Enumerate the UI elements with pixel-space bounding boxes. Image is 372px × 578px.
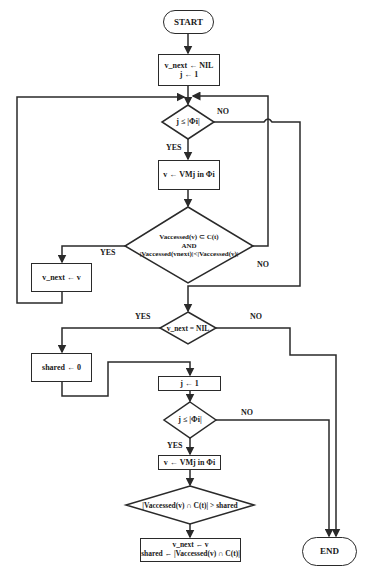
condition-4-text: |Vaccessed(v) ∩ C(t)| > shared [136, 496, 244, 514]
yes-label-cond1: YES [166, 143, 182, 152]
end-label: END [320, 546, 339, 556]
condition-3-label: j ≤ |Φi| [178, 415, 201, 425]
shared-init-box: shared ← 0 [31, 353, 92, 382]
no-label-cond3: NO [241, 408, 253, 417]
init-box: v_next ← NIL j ← 1 [158, 54, 220, 86]
condition-4-label: |Vaccessed(v) ∩ C(t)| > shared [142, 501, 237, 510]
j-reset-box: j ← 1 [158, 376, 221, 391]
final-line-2: shared ← |Vaccessed(v) ∩ C(t)| [141, 550, 240, 559]
init-line-2: j ← 1 [180, 70, 199, 79]
start-terminal: START [163, 10, 214, 34]
no-label-cond2: NO [257, 260, 269, 269]
condition-2-line-2: AND [181, 242, 196, 250]
update-vnext-label: v_next ← v [42, 273, 81, 282]
no-label-cond1: NO [217, 107, 229, 116]
condition-2-text: Vaccessed(v) ⊂ C(t) AND |Vaccessed(vnext… [130, 228, 248, 264]
assign-1-label: v ← VMj in Φi [163, 170, 214, 179]
no-label-nil: NO [250, 312, 262, 321]
start-label: START [174, 17, 203, 27]
end-terminal: END [302, 537, 357, 566]
update-vnext-box: v_next ← v [31, 263, 92, 292]
assign-vm-box-1: v ← VMj in Φi [158, 160, 220, 190]
condition-nil-text: v_next = NIL [160, 318, 216, 338]
condition-1-label: j ≤ |Φi| [176, 117, 199, 127]
yes-label-cond2: YES [100, 248, 116, 257]
init-line-1: v_next ← NIL [165, 61, 214, 70]
yes-label-cond3: YES [167, 441, 183, 450]
condition-nil-label: v_next = NIL [167, 324, 210, 333]
assign-vm-box-2: v ← VMj in Φi [158, 455, 221, 470]
yes-label-nil: YES [135, 312, 151, 321]
assign-2-label: v ← VMj in Φi [164, 458, 215, 467]
j-reset-label: j ← 1 [180, 379, 199, 388]
condition-1-text: j ≤ |Φi| [162, 112, 214, 132]
condition-2-line-1: Vaccessed(v) ⊂ C(t) [159, 233, 218, 241]
final-assign-box: v_next ← v shared ← |Vaccessed(v) ∩ C(t)… [140, 538, 241, 562]
shared-init-label: shared ← 0 [42, 363, 81, 372]
condition-2-line-3: |Vaccessed(vnext)|<|Vaccessed(v)| [140, 250, 239, 258]
condition-3-text: j ≤ |Φi| [164, 410, 216, 430]
